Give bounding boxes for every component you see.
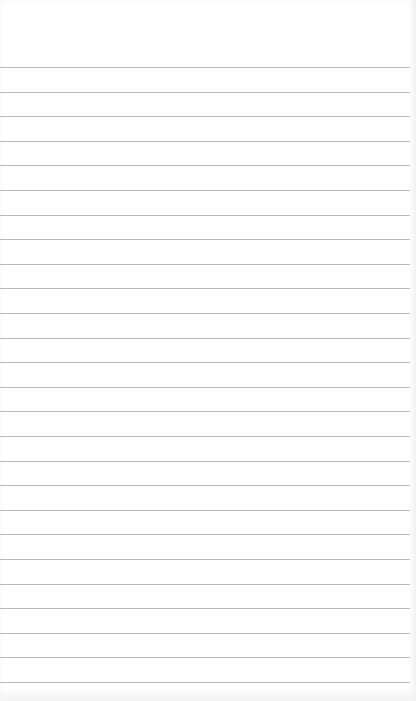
ruled-line: [0, 141, 410, 142]
ruled-line: [0, 313, 410, 314]
header-area: [0, 0, 416, 66]
ruled-line: [0, 461, 410, 462]
ruled-line: [0, 411, 410, 412]
ruled-line: [0, 584, 410, 585]
ruled-line: [0, 387, 410, 388]
ruled-line: [0, 116, 410, 117]
ruled-line: [0, 608, 410, 609]
ruled-line: [0, 288, 410, 289]
ruled-line: [0, 510, 410, 511]
ruled-line: [0, 362, 410, 363]
ruled-line: [0, 534, 410, 535]
ruled-line: [0, 559, 410, 560]
ruled-line: [0, 92, 410, 93]
ruled-line: [0, 682, 410, 683]
ruled-line: [0, 436, 410, 437]
ruled-line: [0, 338, 410, 339]
ruled-line: [0, 67, 410, 68]
ruled-line: [0, 165, 410, 166]
ruled-line: [0, 215, 410, 216]
ruled-line: [0, 485, 410, 486]
right-edge-shade: [408, 0, 416, 701]
ruled-line: [0, 633, 410, 634]
ruled-line: [0, 657, 410, 658]
ruled-line: [0, 190, 410, 191]
ruled-line: [0, 239, 410, 240]
lined-paper: [0, 0, 416, 701]
ruled-line: [0, 264, 410, 265]
